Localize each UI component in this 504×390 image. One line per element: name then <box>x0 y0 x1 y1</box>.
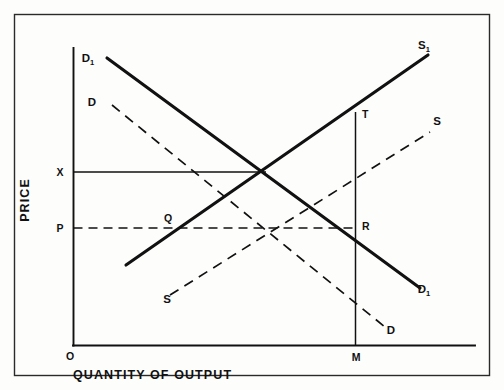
price-tick-label-p: P <box>56 222 63 234</box>
curve-label-demand-original-right: D <box>387 324 395 336</box>
curve-label-supply-original-right: S <box>433 115 441 127</box>
x-axis-title: QUANTITY OF OUTPUT <box>73 368 232 382</box>
curve-demand-original <box>112 105 385 327</box>
point-label-q: Q <box>164 212 172 224</box>
figure-frame <box>15 15 490 376</box>
curve-label-demand-original-left: D <box>88 96 96 108</box>
curve-label-supply-original-left: S <box>163 293 171 305</box>
origin-label: O <box>66 350 74 362</box>
price-tick-label-x: X <box>56 166 63 178</box>
quantity-tick-label-m: M <box>352 351 361 363</box>
point-label-r: R <box>362 220 370 232</box>
curve-label-supply-shifted-right: S1 <box>418 39 430 54</box>
curve-label-demand-shifted-right: D1 <box>418 283 430 298</box>
curve-supply-original <box>170 132 430 295</box>
point-label-t: T <box>362 108 369 120</box>
y-axis-title: PRICE <box>18 178 32 222</box>
curve-label-demand-shifted-left: D1 <box>82 52 94 67</box>
curve-supply-shifted <box>126 55 428 265</box>
figure-container: D1 D S1 S S D1 D Q T R X P M O QUANTITY … <box>0 0 504 390</box>
supply-demand-diagram: D1 D S1 S S D1 D Q T R X P M O QUANTITY … <box>0 0 504 390</box>
